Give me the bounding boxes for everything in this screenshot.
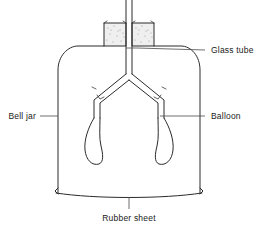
label-glass-tube: Glass tube bbox=[211, 45, 254, 55]
balloon-left bbox=[85, 118, 103, 164]
label-bell-jar: Bell jar bbox=[8, 111, 36, 121]
bronchi-tubes bbox=[92, 74, 166, 118]
glass-tube-leader bbox=[126, 48, 205, 50]
glass-tube bbox=[126, 0, 132, 74]
rubber-sheet-membrane bbox=[56, 193, 202, 198]
bell-jar-outline bbox=[58, 46, 200, 193]
balloon-right bbox=[155, 118, 173, 164]
label-balloon: Balloon bbox=[211, 111, 241, 121]
lung-model-diagram: Glass tube Bell jar Balloon Rubber sheet bbox=[0, 0, 258, 233]
diagram-canvas: Glass tube Bell jar Balloon Rubber sheet bbox=[0, 0, 258, 233]
label-rubber-sheet: Rubber sheet bbox=[102, 213, 156, 223]
stopper bbox=[104, 21, 154, 46]
